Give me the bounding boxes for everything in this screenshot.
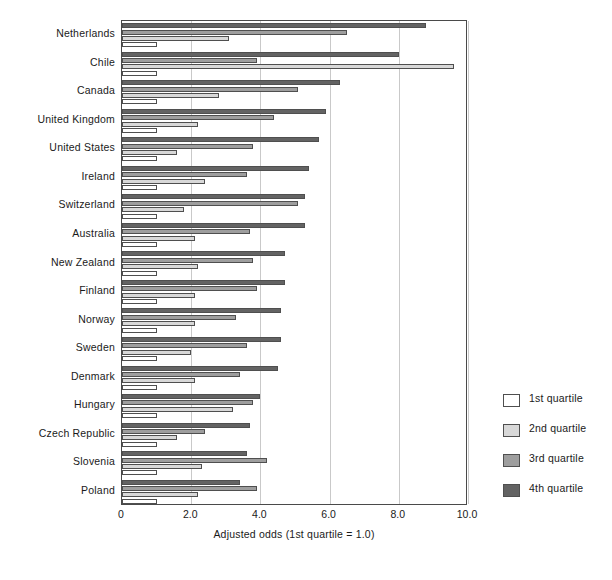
bar-4	[122, 423, 250, 428]
x-tick-label: 10.0	[457, 508, 477, 520]
bar-3	[122, 172, 247, 177]
bar-2	[122, 264, 198, 269]
bar-1	[122, 128, 157, 133]
legend-item: 4th quartile	[503, 482, 607, 512]
legend-label: 3rd quartile	[529, 452, 584, 464]
bar-2	[122, 236, 195, 241]
x-tick-label: 8.0	[390, 508, 405, 520]
bar-group	[122, 420, 466, 449]
bar-1	[122, 42, 157, 47]
bar-2	[122, 150, 177, 155]
y-tick-label: Switzerland	[0, 198, 115, 210]
bar-4	[122, 23, 426, 28]
bar-group	[122, 164, 466, 193]
bar-4	[122, 366, 278, 371]
legend-item: 3rd quartile	[503, 452, 607, 482]
y-tick-label: Norway	[0, 313, 115, 325]
bar-4	[122, 223, 305, 228]
bar-3	[122, 429, 205, 434]
bar-4	[122, 194, 305, 199]
legend-swatch-icon	[503, 484, 520, 497]
bar-3	[122, 115, 274, 120]
bar-group	[122, 477, 466, 506]
x-tick-label: 2.0	[183, 508, 198, 520]
chart-page: NetherlandsChileCanadaUnited KingdomUnit…	[0, 0, 612, 580]
bar-1	[122, 328, 157, 333]
legend-label: 2nd quartile	[529, 422, 586, 434]
bar-2	[122, 64, 454, 69]
bar-group	[122, 192, 466, 221]
y-tick-label: Netherlands	[0, 27, 115, 39]
bar-1	[122, 299, 157, 304]
bar-group	[122, 249, 466, 278]
bar-2	[122, 93, 219, 98]
bar-2	[122, 122, 198, 127]
y-tick-label: New Zealand	[0, 256, 115, 268]
y-tick-label: Finland	[0, 284, 115, 296]
bar-3	[122, 258, 253, 263]
bar-3	[122, 343, 247, 348]
bar-3	[122, 144, 253, 149]
x-axis-title: Adjusted odds (1st quartile = 1.0)	[121, 528, 467, 540]
bar-3	[122, 372, 240, 377]
legend-swatch-icon	[503, 454, 520, 467]
bar-2	[122, 464, 202, 469]
y-tick-label: United States	[0, 141, 115, 153]
bar-4	[122, 394, 260, 399]
bar-3	[122, 486, 257, 491]
x-axis-tick-labels: 02.04.06.08.010.0	[121, 508, 467, 528]
bar-group	[122, 278, 466, 307]
bar-group	[122, 449, 466, 478]
bar-1	[122, 242, 157, 247]
bar-2	[122, 378, 195, 383]
bar-1	[122, 442, 157, 447]
bar-4	[122, 251, 285, 256]
bar-group	[122, 107, 466, 136]
bar-1	[122, 356, 157, 361]
bar-3	[122, 286, 257, 291]
x-tick-label: 4.0	[252, 508, 267, 520]
x-tick-label: 0	[118, 508, 124, 520]
bar-2	[122, 207, 184, 212]
bar-4	[122, 308, 281, 313]
y-tick-label: Slovenia	[0, 455, 115, 467]
bar-4	[122, 109, 326, 114]
chart-legend: 1st quartile2nd quartile3rd quartile4th …	[503, 392, 607, 512]
y-tick-label: Australia	[0, 227, 115, 239]
bar-3	[122, 458, 267, 463]
legend-label: 4th quartile	[529, 482, 583, 494]
bar-group	[122, 21, 466, 50]
bar-3	[122, 315, 236, 320]
bar-group	[122, 221, 466, 250]
bar-group	[122, 50, 466, 79]
legend-item: 2nd quartile	[503, 422, 607, 452]
bar-3	[122, 201, 298, 206]
bar-1	[122, 413, 157, 418]
plot-area	[121, 20, 467, 505]
y-tick-label: Denmark	[0, 370, 115, 382]
bar-2	[122, 179, 205, 184]
bar-2	[122, 293, 195, 298]
bar-4	[122, 451, 247, 456]
y-tick-label: United Kingdom	[0, 113, 115, 125]
bar-group	[122, 78, 466, 107]
y-tick-label: Hungary	[0, 398, 115, 410]
bar-1	[122, 99, 157, 104]
bar-chart: NetherlandsChileCanadaUnited KingdomUnit…	[0, 0, 612, 580]
bar-2	[122, 492, 198, 497]
bar-2	[122, 36, 229, 41]
bar-1	[122, 499, 157, 504]
bar-1	[122, 385, 157, 390]
bar-group	[122, 306, 466, 335]
bar-1	[122, 214, 157, 219]
bar-3	[122, 400, 253, 405]
bar-3	[122, 229, 250, 234]
y-tick-label: Canada	[0, 84, 115, 96]
bar-2	[122, 435, 177, 440]
legend-swatch-icon	[503, 394, 520, 407]
bar-4	[122, 80, 340, 85]
bar-group	[122, 392, 466, 421]
bar-group	[122, 335, 466, 364]
bar-1	[122, 71, 157, 76]
legend-label: 1st quartile	[529, 392, 583, 404]
